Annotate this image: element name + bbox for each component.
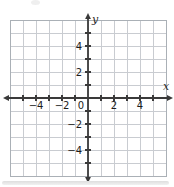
x-axis-label: x [163, 80, 170, 93]
card-shadow [2, 181, 169, 185]
y-tick-label: 4 [76, 41, 82, 52]
coordinate-grid: −4−22442−2−40xy [0, 0, 174, 187]
y-tick-label: −4 [67, 145, 82, 156]
y-axis-up-arrow-icon [85, 13, 91, 19]
x-axis-left-arrow-icon [3, 95, 9, 101]
x-tick-label: −2 [55, 100, 70, 111]
x-tick-label: 4 [137, 100, 143, 111]
origin-label: 0 [78, 100, 84, 111]
y-axis-label: y [91, 13, 99, 26]
x-axis-right-arrow-icon [167, 95, 173, 101]
y-tick-label: −2 [67, 119, 82, 130]
x-tick-label: 2 [111, 100, 117, 111]
x-tick-label: −4 [29, 100, 44, 111]
y-tick-label: 2 [76, 67, 82, 78]
coordinate-plane-figure: −4−22442−2−40xy [0, 0, 174, 187]
